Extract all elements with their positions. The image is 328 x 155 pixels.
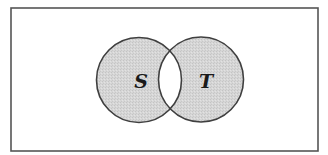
set-t-label: T <box>199 70 215 92</box>
venn-diagram: S T <box>0 0 328 155</box>
set-s-label: S <box>134 70 148 92</box>
